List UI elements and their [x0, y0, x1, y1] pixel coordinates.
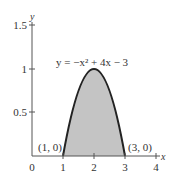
- x-tick-3: 3: [122, 161, 128, 173]
- y-tick-0.5: 0.5: [13, 106, 27, 118]
- point-label-right: (3, 0): [128, 141, 152, 154]
- equation-label: y = −x² + 4x − 3: [56, 56, 129, 68]
- x-tick-4: 4: [153, 161, 159, 173]
- y-tick-1.5: 1.5: [13, 19, 27, 31]
- x-tick-2: 2: [91, 161, 97, 173]
- x-tick-1: 1: [60, 161, 66, 173]
- x-axis-label: x: [160, 151, 166, 162]
- y-axis-label: y: [29, 11, 35, 22]
- chart: 0 1 2 3 4 0.5 1 1.5 y x y = −x² + 4x − 3…: [0, 0, 177, 177]
- point-label-left: (1, 0): [38, 141, 62, 154]
- x-tick-0: 0: [29, 161, 35, 173]
- y-tick-1: 1: [22, 63, 28, 75]
